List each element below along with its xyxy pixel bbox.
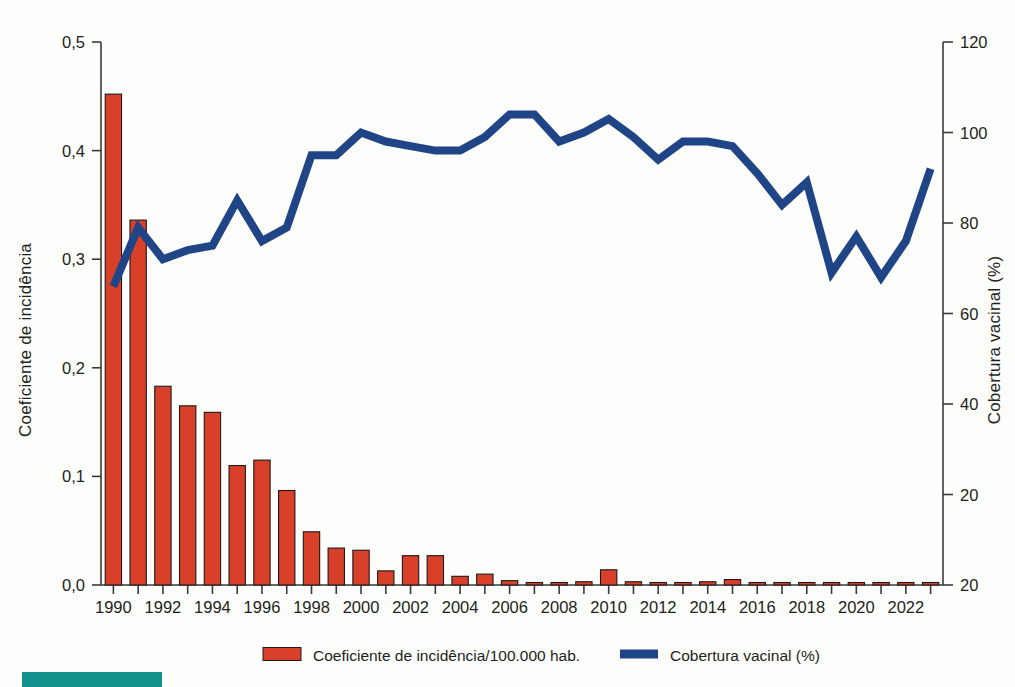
x-tick-label: 2004 xyxy=(442,598,479,616)
left-tick-label: 0,0 xyxy=(62,576,85,594)
bar-2018 xyxy=(799,583,815,586)
left-y-axis: 0,00,10,20,30,40,5 Coeficiente de incidê… xyxy=(16,33,101,594)
bar-2006 xyxy=(501,581,517,585)
x-axis: 1990199219941996199820002002200420062008… xyxy=(95,585,943,616)
bar-2012 xyxy=(650,583,666,586)
x-tick-label: 2014 xyxy=(689,598,726,616)
bar-1991 xyxy=(130,220,146,585)
x-tick-label: 2010 xyxy=(590,598,627,616)
left-axis-title: Coeficiente de incidência xyxy=(16,243,35,437)
bar-2022 xyxy=(898,583,914,586)
x-tick-label: 1990 xyxy=(95,598,132,616)
right-tick-label: 120 xyxy=(960,33,988,51)
right-tick-label: 20 xyxy=(960,486,978,504)
bar-1998 xyxy=(303,532,319,585)
bar-2008 xyxy=(551,583,567,586)
bar-1992 xyxy=(155,386,171,585)
x-tick-label: 2012 xyxy=(640,598,677,616)
x-tick-label: 2002 xyxy=(392,598,429,616)
x-tick-label: 1992 xyxy=(145,598,182,616)
x-tick-label: 1994 xyxy=(194,598,231,616)
bar-2004 xyxy=(452,576,468,585)
x-tick-label: 1998 xyxy=(293,598,330,616)
bar-1999 xyxy=(328,548,344,585)
right-y-axis: 2020406080100120 Cobertura vacinal (%) xyxy=(943,33,1004,594)
x-tick-label: 2018 xyxy=(788,598,825,616)
bar-2005 xyxy=(477,574,493,585)
left-tick-label: 0,4 xyxy=(62,142,85,160)
bar-1996 xyxy=(254,460,270,585)
x-tick-label: 2020 xyxy=(838,598,875,616)
left-tick-label: 0,2 xyxy=(62,359,85,377)
right-tick-label: 100 xyxy=(960,124,988,142)
x-tick-label: 2008 xyxy=(541,598,578,616)
bar-2011 xyxy=(625,582,641,585)
bar-1995 xyxy=(229,466,245,585)
legend-swatch-1 xyxy=(263,648,301,661)
x-tick-label: 2000 xyxy=(343,598,380,616)
bar-2001 xyxy=(378,571,394,585)
x-tick-label: 1996 xyxy=(244,598,281,616)
bar-1997 xyxy=(279,491,295,585)
bar-2007 xyxy=(526,583,542,586)
bar-2016 xyxy=(749,583,765,586)
bar-2015 xyxy=(724,580,740,585)
legend-swatch-2 xyxy=(620,650,658,659)
right-tick-label: 40 xyxy=(960,395,978,413)
bar-2002 xyxy=(402,556,418,585)
bar-2014 xyxy=(700,582,716,585)
right-tick-label: 80 xyxy=(960,214,978,232)
coverage-line-series xyxy=(113,114,930,286)
bar-1993 xyxy=(180,406,196,585)
right-axis-title: Cobertura vacinal (%) xyxy=(985,256,1004,425)
x-tick-group: 1990199219941996199820002002200420062008… xyxy=(95,585,931,616)
chart-legend: Coeficiente de incidência/100.000 hab.Co… xyxy=(263,647,820,664)
bar-2017 xyxy=(774,583,790,586)
bar-2003 xyxy=(427,556,443,585)
bar-1990 xyxy=(105,94,121,585)
right-tick-label: 60 xyxy=(960,305,978,323)
legend-label-2: Cobertura vacinal (%) xyxy=(670,647,820,664)
bar-2019 xyxy=(823,583,839,586)
left-tick-group: 0,00,10,20,30,40,5 xyxy=(62,33,101,594)
right-tick-group: 2020406080100120 xyxy=(943,33,988,594)
bar-2021 xyxy=(873,583,889,586)
x-tick-label: 2006 xyxy=(491,598,528,616)
incidence-vaccine-coverage-chart: 0,00,10,20,30,40,5 Coeficiente de incidê… xyxy=(0,0,1015,687)
x-tick-label: 2022 xyxy=(887,598,924,616)
legend-label-1: Coeficiente de incidência/100.000 hab. xyxy=(313,647,580,664)
accent-bar xyxy=(22,672,162,687)
bar-2020 xyxy=(848,583,864,586)
bar-2023 xyxy=(922,583,938,586)
x-tick-label: 2016 xyxy=(739,598,776,616)
bar-2009 xyxy=(576,582,592,585)
bar-2013 xyxy=(675,583,691,586)
bar-2010 xyxy=(601,570,617,585)
left-tick-label: 0,3 xyxy=(62,250,85,268)
left-tick-label: 0,5 xyxy=(62,33,85,51)
left-tick-label: 0,1 xyxy=(62,467,85,485)
right-tick-label: 20 xyxy=(960,576,978,594)
bar-1994 xyxy=(204,412,220,585)
incidence-bar-series xyxy=(105,94,939,585)
bar-2000 xyxy=(353,550,369,585)
